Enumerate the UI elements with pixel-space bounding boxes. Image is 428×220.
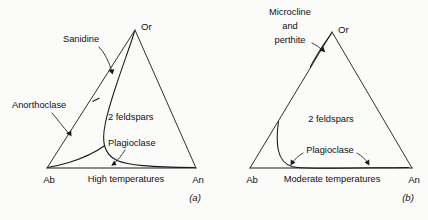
- panel-b-leader-microcline: [312, 43, 322, 50]
- panel-b-field-label-two-feldspars: 2 feldspars: [308, 114, 354, 124]
- panel-b-letter: (b): [402, 192, 414, 203]
- panel-a-caption: High temperatures: [88, 174, 165, 184]
- panel-a-boundary-tick: [93, 98, 100, 102]
- panel-a: Or Ab An Sanidine Anorthoclase 2 feldspa…: [12, 21, 204, 203]
- panel-b-leader-plagioclase-right: [357, 153, 368, 163]
- panel-a-leader-sanidine: [99, 47, 112, 71]
- panel-a-vertex-or-label: Or: [141, 21, 152, 32]
- panel-b-annotation-plagioclase-label: Plagioclase: [306, 145, 354, 155]
- panel-a-letter: (a): [189, 192, 201, 203]
- panel-b-caption: Moderate temperatures: [284, 174, 381, 184]
- panel-b-vertex-an-label: An: [408, 174, 420, 185]
- figure-container: Or Ab An Sanidine Anorthoclase 2 feldspa…: [0, 0, 428, 220]
- panel-b-annotation-microcline-line1: Microcline: [269, 7, 311, 17]
- panel-a-field-label-two-feldspars: 2 feldspars: [108, 112, 154, 122]
- panel-b-leader-plagioclase-left: [293, 153, 304, 163]
- panel-b-annotation-microcline-line2: and: [282, 21, 298, 31]
- feldspar-diagrams-svg: Or Ab An Sanidine Anorthoclase 2 feldspa…: [0, 0, 428, 220]
- panel-b-annotation-microcline-line3: perthite: [274, 35, 305, 45]
- panel-a-vertex-ab-label: Ab: [43, 174, 55, 185]
- panel-b-vertex-ab-label: Ab: [246, 174, 258, 185]
- panel-a-arrowhead-sanidine: [108, 69, 114, 74]
- panel-b-vertex-or-label: Or: [338, 24, 349, 35]
- panel-b: Microcline and perthite 2 feldspars Plag…: [246, 7, 420, 202]
- panel-a-solvus-left-limb: [48, 146, 105, 168]
- panel-a-annotation-anorthoclase-label: Anorthoclase: [12, 100, 66, 110]
- panel-a-leader-anorthoclase: [52, 113, 69, 133]
- panel-b-arrowhead-plagioclase-left: [291, 160, 296, 166]
- panel-a-vertex-an-label: An: [192, 174, 204, 185]
- panel-a-annotation-sanidine-label: Sanidine: [63, 34, 99, 44]
- panel-a-annotation-plagioclase-label: Plagioclase: [108, 138, 156, 148]
- panel-b-arrowhead-plagioclase-right: [365, 160, 370, 166]
